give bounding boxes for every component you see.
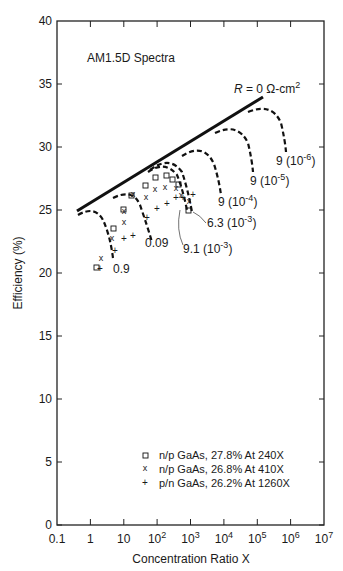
curve-0.9: [78, 211, 113, 258]
efficiency-chart: 0 5 10 15 20 25 30 35 40 0.1 1 10 102 10…: [0, 0, 343, 571]
y-tick-label: 30: [39, 140, 53, 154]
legend-plus-icon: +: [142, 477, 148, 488]
y-tick-label: 20: [39, 266, 53, 280]
svg-text:x: x: [144, 192, 149, 202]
x-tick-label: 106: [281, 530, 299, 546]
curve-label-0.09: 0.09: [145, 236, 169, 250]
svg-text:+: +: [164, 198, 170, 209]
curve-label-0.9: 0.9: [113, 262, 130, 276]
svg-text:+: +: [154, 203, 160, 214]
legend-item-2: n/p GaAs, 26.8% At 410X: [159, 463, 284, 475]
y-tick-label: 35: [39, 77, 53, 91]
x-tick-label: 105: [248, 530, 266, 546]
svg-text:+: +: [144, 212, 150, 223]
y-tick-label: 10: [39, 392, 53, 406]
x-tick-label: 107: [315, 530, 333, 546]
svg-text:+: +: [173, 192, 179, 203]
curve-label-9e-4: 9 (10-4): [218, 193, 257, 209]
svg-text:x: x: [99, 253, 104, 263]
svg-text:+: +: [112, 245, 118, 256]
curve-label-9.1: 9.1 (10-3): [183, 240, 232, 256]
curve-9e-6: [248, 109, 286, 152]
y-tick-label: 5: [45, 455, 52, 469]
legend-item-3: p/n GaAs, 26.2% At 1260X: [159, 477, 291, 489]
legend-item-1: n/p GaAs, 27.8% At 240X: [159, 449, 284, 461]
curve-9e-5: [215, 129, 253, 172]
svg-text:x: x: [153, 184, 158, 194]
curve-label-6.3: 6.3 (10-3): [207, 214, 256, 230]
curve-label-9e-6: 9 (10-6): [276, 152, 315, 168]
svg-text:+: +: [130, 230, 136, 241]
svg-text:x: x: [122, 206, 127, 216]
x-tick-label: 104: [215, 530, 233, 546]
svg-text:x: x: [163, 182, 168, 192]
curve-9e-4: [182, 151, 221, 195]
curve-label-9e-5: 9 (10-5): [250, 172, 289, 188]
y-tick-label: 40: [39, 14, 53, 28]
legend-x-icon: x: [143, 463, 148, 473]
y-axis-label: Efficiency (%): [11, 236, 25, 309]
x-tick-label: 0.1: [49, 532, 66, 546]
y-tick-label: 15: [39, 329, 53, 343]
x-tick-labels: 0.1 1 10 102 103 104 105 106 107: [49, 530, 334, 546]
y-tick-label: 0: [45, 518, 52, 532]
y-tick-label: 25: [39, 203, 53, 217]
legend-square-icon: [143, 453, 148, 458]
x-tick-label: 1: [87, 532, 94, 546]
ideal-line-label: R = 0 Ω-cm2: [234, 80, 300, 96]
svg-text:+: +: [97, 263, 103, 274]
ideal-efficiency-line: [77, 97, 263, 211]
legend: n/p GaAs, 27.8% At 240X x n/p GaAs, 26.8…: [142, 449, 290, 489]
svg-text:x: x: [110, 233, 115, 243]
chart-title: AM1.5D Spectra: [87, 51, 175, 65]
svg-text:+: +: [121, 233, 127, 244]
svg-text:+: +: [180, 192, 186, 203]
leader-lines: [179, 210, 206, 245]
svg-text:x: x: [131, 189, 136, 199]
svg-text:x: x: [122, 217, 127, 227]
y-tick-labels: 0 5 10 15 20 25 30 35 40: [39, 14, 53, 532]
x-tick-label: 102: [148, 530, 166, 546]
x-tick-label: 10: [117, 532, 131, 546]
svg-text:+: +: [190, 189, 196, 200]
x-tick-label: 103: [181, 530, 199, 546]
x-axis-label: Concentration Ratio X: [132, 552, 249, 566]
